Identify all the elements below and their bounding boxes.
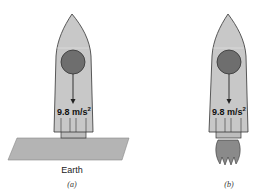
ball-a — [61, 50, 85, 74]
diagram-canvas: 9.8 m/s2 Earth (a) 9.8 m/s2 (b) — [0, 0, 258, 196]
svg-text:9.8 m/s2: 9.8 m/s2 — [212, 106, 247, 117]
ball-b — [217, 50, 241, 74]
acceleration-label-a: 9.8 m/s — [57, 107, 88, 117]
earth-label: Earth — [61, 165, 83, 175]
caption-a: (a) — [67, 180, 77, 189]
caption-b: (b) — [224, 180, 234, 189]
acceleration-label-b: 9.8 m/s — [212, 107, 243, 117]
rocket-flame — [216, 140, 240, 165]
panel-b: 9.8 m/s2 (b) — [209, 14, 248, 189]
earth-ground — [8, 138, 129, 160]
svg-text:9.8 m/s2: 9.8 m/s2 — [57, 106, 92, 117]
panel-a: 9.8 m/s2 Earth (a) — [8, 14, 129, 189]
